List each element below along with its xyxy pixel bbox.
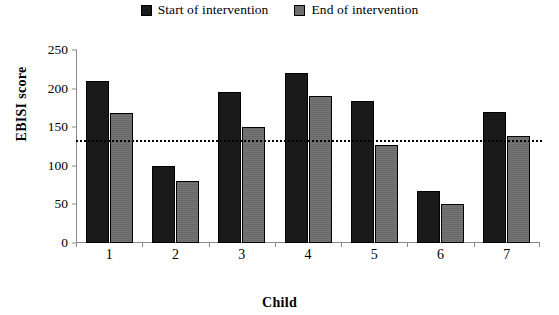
legend-swatch-end-icon <box>294 5 305 16</box>
bar-child-4-end <box>309 96 332 243</box>
x-axis-tick-mark <box>209 242 210 247</box>
y-axis-tick-mark <box>72 50 77 51</box>
bar-child-6-start <box>417 191 440 243</box>
chart-legend: Start of intervention End of interventio… <box>0 2 559 18</box>
x-axis-tick-mark <box>275 242 276 247</box>
x-axis-tick-label: 1 <box>106 247 113 263</box>
bar-child-6-end <box>441 204 464 243</box>
bar-child-7-end <box>507 136 530 243</box>
y-axis-tick-mark <box>72 204 77 205</box>
bar-child-4-start <box>285 73 308 243</box>
x-axis-tick-label: 4 <box>305 247 312 263</box>
legend-item-start-of-intervention: Start of intervention <box>141 2 269 18</box>
x-axis-tick-label: 7 <box>503 247 510 263</box>
bar-child-1-start <box>86 81 109 243</box>
x-axis-tick-mark <box>407 242 408 247</box>
x-axis-tick-mark <box>539 242 540 247</box>
x-axis-tick-label: 2 <box>172 247 179 263</box>
bar-child-1-end <box>110 113 133 243</box>
legend-item-end-of-intervention: End of intervention <box>294 2 418 18</box>
bar-child-5-end <box>375 145 398 243</box>
legend-label-start: Start of intervention <box>158 2 269 18</box>
y-axis-tick-mark <box>72 88 77 89</box>
y-axis-tick-mark <box>72 165 77 166</box>
x-axis-tick-label: 5 <box>371 247 378 263</box>
bar-child-5-start <box>351 101 374 243</box>
bar-child-2-end <box>176 181 199 243</box>
x-axis-tick-label: 6 <box>437 247 444 263</box>
bar-child-3-end <box>242 127 265 243</box>
ebisi-score-bar-chart: Start of intervention End of interventio… <box>0 0 559 315</box>
legend-label-end: End of intervention <box>311 2 418 18</box>
x-axis-tick-mark <box>474 242 475 247</box>
x-axis-tick-mark <box>142 242 143 247</box>
bar-child-3-start <box>218 92 241 243</box>
x-axis-tick-mark <box>341 242 342 247</box>
plot-area: 0501001502002501234567 <box>76 50 540 243</box>
bar-child-7-start <box>483 112 506 243</box>
bar-child-2-start <box>152 166 175 243</box>
y-axis-tick-mark <box>72 127 77 128</box>
legend-swatch-start-icon <box>141 5 152 16</box>
x-axis-tick-label: 3 <box>238 247 245 263</box>
x-axis-title: Child <box>0 295 559 311</box>
x-axis-tick-mark <box>76 242 77 247</box>
y-axis-title: EBISI score <box>14 44 30 164</box>
y-axis-line <box>76 50 77 243</box>
reference-line <box>76 140 542 142</box>
